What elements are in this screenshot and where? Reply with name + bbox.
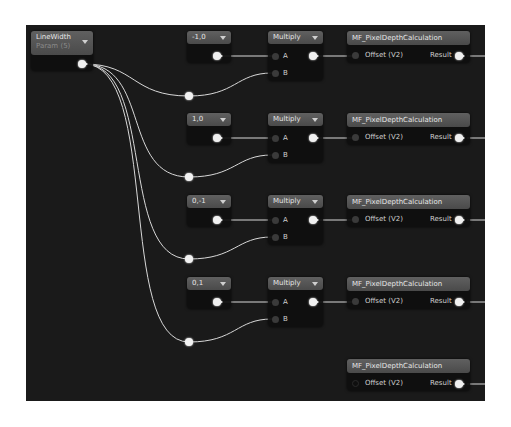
reroute-node[interactable]: [185, 92, 193, 100]
offset-label: Offset (V2): [365, 379, 403, 388]
wire-reroute-2-to-b: [189, 155, 272, 177]
chevron-down-icon[interactable]: [220, 118, 226, 122]
linewidth-param-node[interactable]: LineWidth Param (5): [31, 31, 93, 71]
constant-node[interactable]: 1,0: [187, 113, 231, 145]
input-pin-b[interactable]: [272, 70, 279, 77]
offset-input-pin[interactable]: [352, 52, 359, 59]
node-header: MF_PixelDepthCalculation: [347, 359, 470, 373]
mf-pixel-depth-node[interactable]: MF_PixelDepthCalculation Offset (V2) Res…: [347, 195, 470, 227]
input-pin-a[interactable]: [272, 53, 279, 60]
function-title: MF_PixelDepthCalculation: [352, 34, 442, 42]
result-label: Result: [430, 133, 452, 142]
function-title: MF_PixelDepthCalculation: [352, 198, 442, 206]
wire-to-reroute-4: [84, 64, 189, 342]
offset-input-pin[interactable]: [352, 134, 359, 141]
offset-input-pin[interactable]: [352, 298, 359, 305]
result-output-pin[interactable]: [455, 216, 463, 224]
input-pin-a[interactable]: [272, 135, 279, 142]
node-header: MF_PixelDepthCalculation: [347, 277, 470, 291]
multiply-title: Multiply: [273, 33, 301, 41]
pin-a-label: A: [283, 298, 288, 307]
constant-value: 0,1: [192, 279, 203, 287]
constant-node[interactable]: -1,0: [187, 31, 231, 63]
multiply-node[interactable]: Multiply A B: [268, 277, 323, 327]
mf-pixel-depth-node[interactable]: MF_PixelDepthCalculation Offset (V2) Res…: [347, 113, 470, 145]
output-pin[interactable]: [309, 52, 317, 60]
node-header: 0,-1: [187, 195, 231, 208]
node-header: LineWidth Param (5): [31, 31, 93, 55]
constant-node[interactable]: 0,-1: [187, 195, 231, 227]
node-header: 0,1: [187, 277, 231, 290]
pin-a-label: A: [283, 52, 288, 61]
pin-b-label: B: [283, 315, 288, 324]
mf-pixel-depth-node[interactable]: MF_PixelDepthCalculation Offset (V2) Res…: [347, 31, 470, 63]
output-pin[interactable]: [213, 52, 221, 60]
result-output-pin[interactable]: [455, 52, 463, 60]
pin-b-label: B: [283, 69, 288, 78]
chevron-down-icon[interactable]: [312, 282, 318, 286]
offset-label: Offset (V2): [365, 133, 403, 142]
chevron-down-icon[interactable]: [312, 36, 318, 40]
multiply-node[interactable]: Multiply A B: [268, 113, 323, 163]
reroute-node[interactable]: [185, 338, 193, 346]
output-pin[interactable]: [309, 216, 317, 224]
mf-pixel-depth-node-unconnected[interactable]: MF_PixelDepthCalculation Offset (V2) Res…: [347, 359, 470, 391]
result-output-pin[interactable]: [455, 134, 463, 142]
function-title: MF_PixelDepthCalculation: [352, 116, 442, 124]
node-header: MF_PixelDepthCalculation: [347, 113, 470, 127]
output-pin[interactable]: [309, 134, 317, 142]
pin-a-label: A: [283, 216, 288, 225]
pin-b-label: B: [283, 151, 288, 160]
constant-node[interactable]: 0,1: [187, 277, 231, 309]
input-pin-b[interactable]: [272, 316, 279, 323]
chevron-down-icon[interactable]: [82, 40, 88, 44]
multiply-title: Multiply: [273, 197, 301, 205]
wire-to-reroute-3: [84, 64, 189, 259]
reroute-node[interactable]: [185, 173, 193, 181]
param-title: LineWidth: [36, 33, 71, 41]
node-header: MF_PixelDepthCalculation: [347, 195, 470, 209]
material-graph-canvas[interactable]: LineWidth Param (5) -1,0 Multiply A B MF…: [26, 25, 485, 401]
input-pin-a[interactable]: [272, 299, 279, 306]
input-pin-b[interactable]: [272, 234, 279, 241]
chevron-down-icon[interactable]: [220, 282, 226, 286]
node-header: Multiply: [268, 31, 323, 44]
pin-a-label: A: [283, 134, 288, 143]
multiply-node[interactable]: Multiply A B: [268, 31, 323, 81]
offset-label: Offset (V2): [365, 215, 403, 224]
offset-input-pin[interactable]: [352, 380, 359, 387]
offset-label: Offset (V2): [365, 297, 403, 306]
node-header: Multiply: [268, 113, 323, 126]
reroute-node[interactable]: [185, 255, 193, 263]
output-pin[interactable]: [309, 298, 317, 306]
chevron-down-icon[interactable]: [312, 118, 318, 122]
pin-b-label: B: [283, 233, 288, 242]
output-pin[interactable]: [78, 60, 86, 68]
offset-input-pin[interactable]: [352, 216, 359, 223]
multiply-title: Multiply: [273, 279, 301, 287]
node-header: 1,0: [187, 113, 231, 126]
node-header: Multiply: [268, 277, 323, 290]
output-pin[interactable]: [213, 298, 221, 306]
chevron-down-icon[interactable]: [220, 200, 226, 204]
wire-reroute-4-to-b: [189, 319, 272, 342]
multiply-title: Multiply: [273, 115, 301, 123]
result-output-pin[interactable]: [455, 298, 463, 306]
result-output-pin[interactable]: [455, 380, 463, 388]
node-header: Multiply: [268, 195, 323, 208]
output-pin[interactable]: [213, 134, 221, 142]
input-pin-b[interactable]: [272, 152, 279, 159]
multiply-node[interactable]: Multiply A B: [268, 195, 323, 245]
chevron-down-icon[interactable]: [312, 200, 318, 204]
constant-value: 1,0: [192, 115, 203, 123]
wire-reroute-1-to-b: [189, 73, 272, 96]
result-label: Result: [430, 297, 452, 306]
result-label: Result: [430, 379, 452, 388]
output-pin[interactable]: [213, 216, 221, 224]
function-title: MF_PixelDepthCalculation: [352, 362, 442, 370]
node-header: -1,0: [187, 31, 231, 44]
input-pin-a[interactable]: [272, 217, 279, 224]
mf-pixel-depth-node[interactable]: MF_PixelDepthCalculation Offset (V2) Res…: [347, 277, 470, 309]
chevron-down-icon[interactable]: [220, 36, 226, 40]
constant-value: -1,0: [192, 33, 206, 41]
